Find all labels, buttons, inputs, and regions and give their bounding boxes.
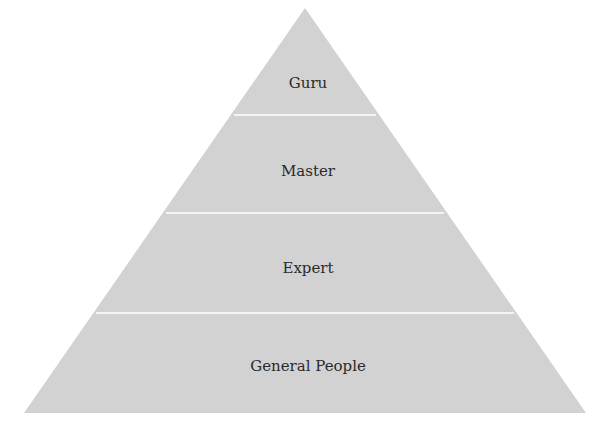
level-general-people: General People: [0, 357, 616, 375]
pyramid-shape: [24, 8, 586, 413]
level-master: Master: [0, 162, 616, 180]
level-guru: Guru: [0, 74, 616, 92]
level-expert: Expert: [0, 259, 616, 277]
